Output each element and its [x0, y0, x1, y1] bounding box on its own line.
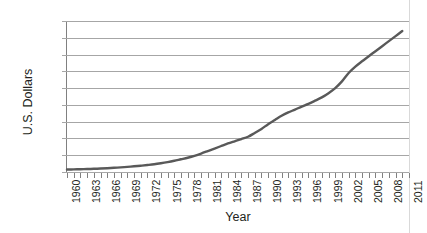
- x-tick-2007: [382, 173, 383, 178]
- x-tick-1986: [241, 173, 242, 178]
- series-line-us-dollars: [67, 21, 409, 173]
- x-tick-1991: [275, 173, 276, 178]
- x-tick-1985: [235, 173, 236, 178]
- x-tick-1965: [101, 173, 102, 178]
- x-tick-1982: [215, 173, 216, 178]
- x-tick-2004: [362, 173, 363, 178]
- x-tick-label-1969: 1969: [131, 180, 142, 203]
- x-tick-label-1963: 1963: [91, 180, 102, 203]
- x-tick-label-1999: 1999: [333, 180, 344, 203]
- x-tick-2000: [335, 173, 336, 178]
- x-tick-label-1960: 1960: [71, 180, 82, 203]
- x-tick-1994: [295, 173, 296, 178]
- x-tick-1999: [329, 173, 330, 178]
- x-tick-2001: [342, 173, 343, 178]
- x-tick-1966: [107, 173, 108, 178]
- x-tick-1983: [221, 173, 222, 178]
- x-tick-label-1966: 1966: [111, 180, 122, 203]
- y-axis-title: U.S. Dollars: [21, 27, 35, 177]
- x-tick-label-1987: 1987: [252, 180, 263, 203]
- x-tick-2006: [375, 173, 376, 178]
- x-tick-2009: [396, 173, 397, 178]
- x-tick-label-1975: 1975: [172, 180, 183, 203]
- x-tick-1984: [228, 173, 229, 178]
- x-tick-label-2002: 2002: [353, 180, 364, 203]
- x-tick-1998: [322, 173, 323, 178]
- x-tick-1975: [168, 173, 169, 178]
- x-tick-1961: [74, 173, 75, 178]
- x-tick-label-1984: 1984: [232, 180, 243, 203]
- x-tick-1970: [134, 173, 135, 178]
- x-tick-1974: [161, 173, 162, 178]
- x-tick-label-1996: 1996: [312, 180, 323, 203]
- x-tick-label-1978: 1978: [192, 180, 203, 203]
- x-tick-label-2005: 2005: [373, 180, 384, 203]
- x-tick-1971: [141, 173, 142, 178]
- x-tick-label-1972: 1972: [151, 180, 162, 203]
- x-tick-label-2011: 2011: [413, 180, 424, 203]
- x-tick-label-1981: 1981: [212, 180, 223, 203]
- x-tick-1964: [94, 173, 95, 178]
- x-tick-2002: [349, 173, 350, 178]
- x-tick-2005: [369, 173, 370, 178]
- x-tick-1960: [67, 173, 68, 178]
- x-tick-2003: [355, 173, 356, 178]
- x-tick-1995: [302, 173, 303, 178]
- x-tick-label-1990: 1990: [272, 180, 283, 203]
- x-tick-1988: [255, 173, 256, 178]
- x-tick-1962: [80, 173, 81, 178]
- figure-right-border: [409, 0, 410, 233]
- x-tick-1992: [282, 173, 283, 178]
- x-axis-title: Year: [67, 210, 409, 224]
- x-tick-2011: [409, 173, 410, 178]
- x-tick-1973: [154, 173, 155, 178]
- x-tick-label-1993: 1993: [292, 180, 303, 203]
- x-tick-1976: [174, 173, 175, 178]
- x-tick-1980: [201, 173, 202, 178]
- x-tick-2010: [402, 173, 403, 178]
- x-tick-1968: [121, 173, 122, 178]
- x-tick-1978: [188, 173, 189, 178]
- x-tick-label-2008: 2008: [393, 180, 404, 203]
- x-tick-1987: [248, 173, 249, 178]
- x-tick-2008: [389, 173, 390, 178]
- x-tick-1967: [114, 173, 115, 178]
- plot-area: 0100020003000400050006000700080009000 19…: [67, 21, 409, 172]
- x-tick-1993: [288, 173, 289, 178]
- x-tick-1977: [181, 173, 182, 178]
- x-tick-1981: [208, 173, 209, 178]
- x-tick-1989: [261, 173, 262, 178]
- x-tick-1990: [268, 173, 269, 178]
- x-tick-1979: [194, 173, 195, 178]
- x-tick-1996: [308, 173, 309, 178]
- x-tick-1997: [315, 173, 316, 178]
- x-tick-1969: [127, 173, 128, 178]
- chart-figure: U.S. Dollars 010002000300040005000600070…: [0, 0, 427, 233]
- x-tick-1963: [87, 173, 88, 178]
- x-tick-1972: [147, 173, 148, 178]
